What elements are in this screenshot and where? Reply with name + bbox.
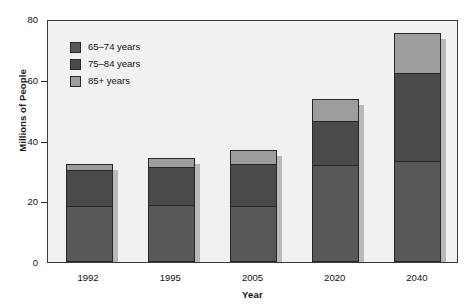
bar-segment-65-74 [230,206,277,262]
bar-segment-65-74 [394,161,441,262]
plot-area: 65–74 years 75–84 years 85+ years [47,20,458,263]
bar-segment-65-74 [312,165,359,262]
legend-swatch-75-84-icon [70,59,81,70]
x-axis-tick-label: 1992 [53,272,123,283]
y-axis-tick-label: 20 [0,197,38,207]
bar-segment-75-84 [66,170,113,207]
legend-item: 75–84 years [70,56,140,72]
legend: 65–74 years 75–84 years 85+ years [70,39,140,90]
legend-swatch-65-74-icon [70,42,81,53]
bar-chart: Millions of People 020406080 65–74 years… [0,0,466,306]
x-axis-tick-label: 2020 [300,272,370,283]
bar-segment-65-74 [148,205,195,262]
bar-segment-85plus [230,150,277,165]
bar-segment-75-84 [394,73,441,162]
x-axis-title: Year [47,289,458,300]
y-axis-tick-label: 40 [0,137,38,147]
legend-label: 65–74 years [88,42,140,52]
bar-segment-65-74 [66,206,113,262]
legend-swatch-85plus-icon [70,76,81,87]
legend-item: 65–74 years [70,39,140,55]
y-axis-title: Millions of People [17,51,28,171]
bar-segment-85plus [66,164,113,171]
bar-segment-85plus [312,99,359,123]
legend-item: 85+ years [70,73,140,89]
bar-segment-75-84 [148,167,195,206]
x-axis-tick-label: 1995 [135,272,205,283]
bar-segment-75-84 [230,164,277,208]
bar-segment-85plus [148,158,195,168]
y-axis-tick-label: 80 [0,15,38,25]
y-axis-tick-label: 0 [0,258,38,268]
x-axis-tick-label: 2005 [218,272,288,283]
bar-segment-85plus [394,33,441,73]
legend-label: 85+ years [88,76,130,86]
bar-segment-75-84 [312,121,359,166]
x-axis-tick-label: 2040 [382,272,452,283]
legend-label: 75–84 years [88,59,140,69]
y-axis-tick-label: 60 [0,76,38,86]
